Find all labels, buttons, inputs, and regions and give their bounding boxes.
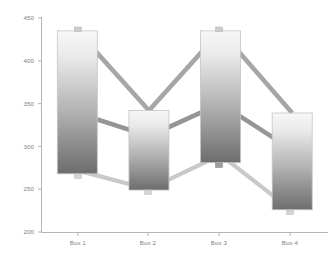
bar-box-1[interactable] [57, 31, 97, 174]
x-axis-label-box-3: Box 3 [197, 239, 241, 247]
max-marker-box-3 [216, 27, 223, 32]
chart-canvas [0, 0, 333, 257]
min-marker-box-3 [216, 163, 223, 168]
max-marker-box-1 [75, 27, 82, 32]
y-axis-label-350: 350 [12, 100, 34, 107]
series-line-min [77, 155, 292, 211]
x-axis-label-box-2: Box 2 [126, 239, 170, 247]
series-line-median [77, 104, 292, 150]
max-polyline [77, 31, 292, 113]
bar-box-2[interactable] [129, 110, 169, 190]
y-axis-label-200: 200 [12, 228, 34, 235]
y-axis-label-250: 250 [12, 185, 34, 192]
chart-container: 450 400 350 300 250 200 Box 1 Box 2 Box … [0, 0, 333, 257]
min-marker-box-1 [75, 174, 82, 179]
x-axis-label-box-1: Box 1 [56, 239, 100, 247]
y-axis-label-400: 400 [12, 57, 34, 64]
y-axis-label-300: 300 [12, 143, 34, 150]
min-polyline [77, 155, 292, 211]
x-axis-label-box-4: Box 4 [268, 239, 312, 247]
bar-box-3[interactable] [201, 31, 241, 163]
series-line-max [77, 31, 292, 113]
y-axis-label-450: 450 [12, 14, 34, 21]
median-polyline [77, 104, 292, 150]
bar-box-4[interactable] [272, 113, 312, 210]
plot-area: 450 400 350 300 250 200 Box 1 Box 2 Box … [0, 0, 333, 257]
min-marker-box-2 [145, 190, 152, 195]
min-marker-box-4 [287, 210, 294, 215]
